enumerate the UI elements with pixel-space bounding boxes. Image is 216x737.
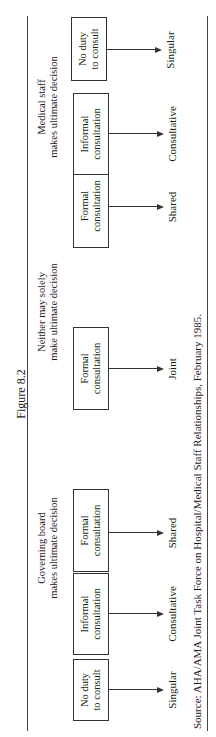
top-rule	[27, 16, 28, 731]
group-label-governing-board: Governing board makes ultimate decision	[36, 448, 60, 648]
arrow-line	[109, 368, 159, 369]
arrow-head	[157, 204, 164, 210]
node-formal-consultation-joint: Formalconsultation	[73, 327, 109, 410]
outcome-consultative-right: Consultative	[166, 89, 178, 179]
arrow-head	[157, 131, 164, 137]
arrow-line	[107, 49, 157, 50]
node-no-duty-to-consult-medical: No dutyto consult	[71, 17, 107, 81]
arrow-line	[109, 613, 159, 614]
arrow-head	[155, 47, 162, 53]
source-note: Source: AHA/AMA Joint Task Force on Hosp…	[191, 314, 203, 729]
arrow-head	[157, 611, 164, 617]
arrow-line	[109, 206, 159, 207]
arrow-head	[157, 366, 164, 372]
outcome-consultative-left: Consultative	[166, 569, 178, 659]
arrow-head	[157, 530, 164, 536]
node-informal-consultation-governing: Informalconsultation	[73, 573, 109, 655]
outcome-singular-right: Singular	[164, 5, 176, 95]
arrow-line	[109, 689, 159, 690]
bottom-rule	[207, 16, 208, 731]
outcome-shared-left: Shared	[166, 488, 178, 578]
arrow-head	[157, 687, 164, 693]
arrow-line	[109, 532, 159, 533]
group-label-neither: Neither may solely make ultimate decisio…	[36, 212, 60, 412]
node-no-duty-to-consult-governing: No dutyto consult	[73, 659, 109, 721]
node-informal-consultation-medical: Informalconsultation	[73, 93, 109, 175]
node-formal-consultation-governing: Formalconsultation	[73, 489, 109, 572]
arrow-line	[109, 133, 159, 134]
node-formal-consultation-medical: Formalconsultation	[73, 164, 109, 248]
group-label-medical-staff: Medical staff makes ultimate decision	[36, 7, 60, 207]
outcome-joint: Joint	[166, 324, 178, 414]
figure-8-2: Figure 8.2 Governing board makes ultimat…	[0, 0, 216, 737]
